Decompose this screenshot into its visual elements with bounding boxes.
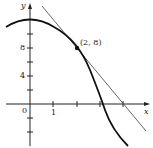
x-axis-label: x xyxy=(144,108,149,116)
y-axis-label: y xyxy=(21,2,26,10)
point-label: (2, 8) xyxy=(80,39,102,47)
y-tick-label-8: 8 xyxy=(20,44,25,52)
x-tick-label-0: 0 xyxy=(22,107,27,115)
x-axis-arrow-icon xyxy=(144,102,150,106)
parabola-curve xyxy=(6,20,128,147)
y-tick-label-4: 4 xyxy=(20,72,25,80)
y-axis-arrow-icon xyxy=(28,3,32,9)
x-tick-label-1: 1 xyxy=(51,109,56,117)
tangent-line xyxy=(42,6,146,131)
tangent-point xyxy=(75,46,79,50)
